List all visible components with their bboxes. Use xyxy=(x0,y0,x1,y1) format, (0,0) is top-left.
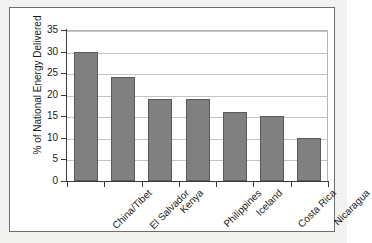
bar xyxy=(148,99,172,181)
gridline xyxy=(67,31,327,32)
x-axis-label: Costa Rica xyxy=(296,188,338,230)
y-axis-tick xyxy=(61,159,67,160)
x-axis-tick xyxy=(142,182,143,187)
x-axis-tick xyxy=(253,182,254,187)
bar xyxy=(297,138,321,181)
gridline xyxy=(67,53,327,54)
gridline xyxy=(67,96,327,97)
x-axis-tick xyxy=(104,182,105,187)
x-axis-tick xyxy=(291,182,292,187)
x-axis-tick xyxy=(216,182,217,187)
y-axis-tick xyxy=(61,116,67,117)
x-axis-label: China/Tibet xyxy=(111,188,154,231)
x-axis-label: Nicaragua xyxy=(333,188,372,227)
y-axis-tick xyxy=(61,138,67,139)
y-axis-title: % of National Energy Delivered xyxy=(33,10,43,160)
x-axis-tick xyxy=(67,182,68,187)
bar xyxy=(260,116,284,181)
y-axis-tick xyxy=(61,73,67,74)
bar xyxy=(186,99,210,181)
bar xyxy=(111,77,135,181)
y-axis-tick xyxy=(61,95,67,96)
x-axis-line xyxy=(61,181,329,182)
gridline xyxy=(67,74,327,75)
bar xyxy=(74,52,98,181)
chart-frame: 05101520253035 China/TibetEl SalvadorKen… xyxy=(9,7,335,232)
x-axis-tick xyxy=(179,182,180,187)
y-axis-tick xyxy=(61,30,67,31)
bar xyxy=(223,112,247,181)
x-axis-tick xyxy=(328,182,329,187)
y-axis-tick xyxy=(61,52,67,53)
y-axis-tick-label: 0 xyxy=(36,176,58,186)
y-axis-tick-label-wrap: 0 xyxy=(36,176,58,186)
